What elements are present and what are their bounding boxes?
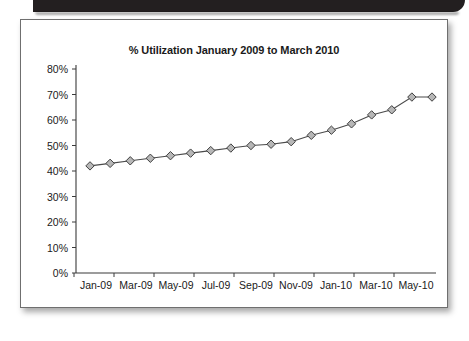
data-point-marker [428,93,436,101]
data-point-marker [388,106,396,114]
data-point-marker [327,126,335,134]
y-tick-label: 30% [47,191,68,203]
x-tick-label: Sep-09 [239,279,273,291]
chart-plot-area: 0%10%20%30%40%50%60%70%80% Jan-09Mar-09M… [21,20,449,309]
y-tick-label: 0% [53,267,68,279]
y-tick-label: 50% [47,140,68,152]
series-line [90,97,432,166]
x-tick-label: Mar-10 [359,279,392,291]
data-point-marker [367,111,375,119]
data-point-marker [106,159,114,167]
y-tick-label: 20% [47,216,68,228]
x-tick-label: Nov-09 [279,279,313,291]
data-point-marker [166,152,174,160]
data-point-marker [186,149,194,157]
x-tick-label: Jan-10 [320,279,352,291]
utilization-series [86,93,436,170]
data-point-marker [247,141,255,149]
y-tick-label: 80% [47,63,68,75]
x-tick-label: Mar-09 [119,279,152,291]
data-point-marker [227,144,235,152]
x-tick-label: May-09 [158,279,193,291]
x-axis: Jan-09Mar-09May-09Jul-09Sep-09Nov-09Jan-… [74,273,436,291]
x-tick-label: May-10 [398,279,433,291]
data-point-marker [408,93,416,101]
data-point-marker [347,120,355,128]
y-tick-label: 70% [47,89,68,101]
data-point-marker [86,162,94,170]
chart-card: % Utilization January 2009 to March 2010… [20,19,448,308]
y-tick-label: 60% [47,114,68,126]
data-point-marker [267,140,275,148]
data-point-marker [126,157,134,165]
y-tick-label: 40% [47,165,68,177]
data-point-marker [307,131,315,139]
data-point-marker [287,137,295,145]
y-tick-label: 10% [47,242,68,254]
x-tick-label: Jan-09 [80,279,112,291]
data-point-marker [146,154,154,162]
data-point-marker [207,146,215,154]
page-header-band [33,0,465,12]
line-chart-svg: 0%10%20%30%40%50%60%70%80% Jan-09Mar-09M… [21,20,449,309]
x-tick-label: Jul-09 [202,279,231,291]
y-axis: 0%10%20%30%40%50%60%70%80% [47,63,76,279]
